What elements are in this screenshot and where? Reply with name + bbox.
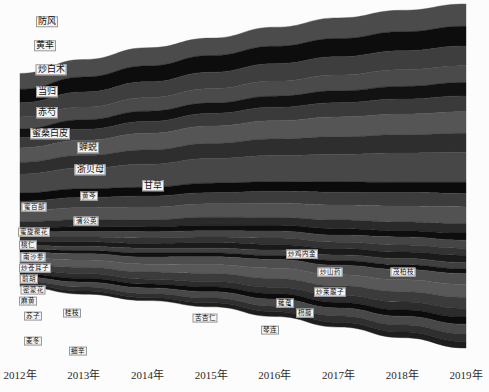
stream-label: 当归 — [36, 86, 58, 97]
stream-label: 蜜桑白皮 — [30, 128, 70, 139]
stream-label: 炒苍耳子 — [19, 264, 51, 273]
stream-label: 浙贝母 — [75, 164, 106, 175]
stream-label: 苏子 — [24, 312, 42, 321]
stream-label: 麻黄 — [19, 297, 37, 306]
stream-label: 苦杏仁 — [193, 314, 218, 323]
stream-label: 细辛 — [69, 347, 87, 356]
stream-label: 甘草 — [142, 180, 164, 191]
streamgraph-chart: 防风黄芈炒白术当归赤芍蜜桑白皮蝉蜕浙贝母甘草黄芩蜜百部蒲公英蜜旋覆花桃仁南沙参炒… — [0, 0, 489, 392]
stream-label: 枴藤 — [296, 309, 314, 318]
stream-label: 蜜旋覆花 — [18, 228, 50, 237]
stream-label: 蒲公英 — [74, 217, 99, 226]
stream-label: 蝉蜕 — [77, 142, 99, 153]
stream-label: 薙虿 — [276, 299, 294, 308]
stream-label-layer: 防风黄芈炒白术当归赤芍蜜桑白皮蝉蜕浙贝母甘草黄芩蜜百部蒲公英蜜旋覆花桃仁南沙参炒… — [0, 0, 489, 392]
stream-label: 琴连 — [261, 326, 279, 335]
stream-label: 黄芩 — [80, 192, 98, 201]
stream-label: 赤芍 — [36, 107, 58, 118]
stream-label: 炒山药 — [318, 268, 343, 277]
stream-label: 黄芈 — [34, 40, 56, 51]
stream-label: 前胡 — [20, 275, 38, 284]
stream-label: 桂枝 — [63, 309, 81, 318]
stream-label: 防风 — [36, 16, 58, 27]
stream-label: 密蒙花 — [21, 286, 46, 295]
stream-label: 麦冬 — [24, 337, 42, 346]
stream-label: 炒鸡内金 — [286, 250, 318, 259]
stream-label: 蜜百部 — [22, 203, 47, 212]
stream-label: 桃仁 — [19, 241, 37, 250]
stream-label: 茂柏枝 — [391, 268, 416, 277]
stream-label: 南沙参 — [21, 253, 46, 262]
stream-label: 炒白术 — [36, 64, 67, 75]
stream-label: 炒莱菔子 — [314, 288, 346, 297]
